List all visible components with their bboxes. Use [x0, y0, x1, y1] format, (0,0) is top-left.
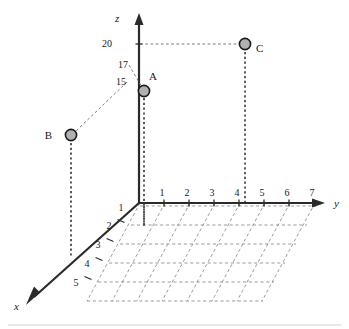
x-axis-ticks: [85, 220, 125, 280]
y-tick-label-3: 3: [210, 187, 215, 198]
data-point-C[interactable]: [239, 38, 250, 49]
z-axis: [135, 13, 144, 203]
x-tick-label-1: 1: [119, 202, 124, 213]
leader-line-z15-to-B: [76, 82, 127, 131]
three-d-coordinate-figure: z y x 20 17 15 1 2 3 4 5 6 7 1 2 3 4 5 A…: [0, 0, 349, 329]
z-tick-label-15: 15: [116, 76, 126, 87]
y-tick-label-2: 2: [185, 187, 190, 198]
coordinate-plot: z y x 20 17 15 1 2 3 4 5 6 7 1 2 3 4 5 A…: [0, 0, 349, 329]
grid-line-const-y: [162, 203, 215, 301]
x-tick-label-3: 3: [96, 239, 101, 250]
x-axis-label: x: [13, 300, 19, 312]
grid-line-const-y: [237, 203, 290, 301]
z-axis-arrow-icon: [135, 13, 144, 25]
x-tick: [107, 239, 114, 242]
grid-line-const-y: [112, 203, 165, 301]
y-tick-label-1: 1: [160, 187, 165, 198]
point-label-B: B: [45, 129, 52, 141]
z-tick-label-20: 20: [102, 38, 112, 49]
y-tick-label-5: 5: [260, 187, 265, 198]
z-tick-label-17: 17: [118, 59, 128, 70]
x-axis-arrow-icon: [26, 287, 40, 306]
leader-line-z17-to-A: [129, 65, 143, 89]
grid-line-const-y: [87, 203, 140, 301]
z-axis-label: z: [114, 12, 120, 24]
x-tick-label-2: 2: [107, 220, 112, 231]
x-axis-line: [34, 203, 139, 297]
data-point-B[interactable]: [65, 129, 76, 140]
point-label-A: A: [149, 70, 157, 82]
y-tick-label-6: 6: [285, 187, 290, 198]
x-tick: [96, 258, 103, 261]
grid-line-const-y: [212, 203, 265, 301]
data-point-A[interactable]: [138, 85, 149, 96]
grid-line-const-y: [137, 203, 190, 301]
x-tick: [85, 277, 92, 280]
grid-line-const-y: [262, 203, 315, 301]
y-tick-label-7: 7: [310, 187, 315, 198]
grid-line-const-y: [187, 203, 240, 301]
point-label-C: C: [256, 42, 263, 54]
x-axis: [26, 203, 139, 305]
y-axis-label: y: [333, 197, 339, 209]
x-tick-label-4: 4: [85, 258, 90, 269]
y-tick-label-4: 4: [235, 187, 240, 198]
x-tick-label-5: 5: [74, 277, 79, 288]
